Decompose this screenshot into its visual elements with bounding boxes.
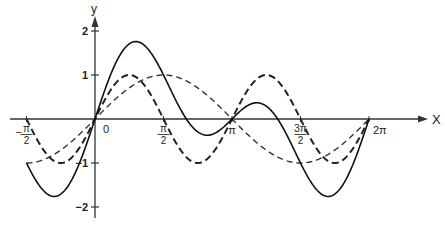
x-axis-arrow-icon: [418, 116, 428, 123]
y-axis-label: y: [91, 2, 97, 16]
y-tick-label: 1: [82, 69, 88, 81]
y-tick-label: 2: [82, 25, 88, 37]
x-axis-label: X: [432, 112, 441, 127]
fraction-denominator: 2: [298, 135, 304, 146]
plot-area: Xy21−1−2−π20π2π3π22π: [0, 0, 445, 228]
fraction-numerator: π: [23, 123, 30, 134]
axes: [10, 16, 428, 218]
fraction-denominator: 2: [24, 135, 30, 146]
fraction-numerator: 3π: [294, 123, 307, 134]
x-tick-label: π: [228, 124, 236, 136]
chart-figure: Xy21−1−2−π20π2π3π22π: [0, 0, 445, 228]
y-tick-label: −1: [75, 157, 88, 169]
minus-sign: −: [15, 126, 21, 138]
x-tick-label: π2: [158, 123, 170, 146]
x-tick-label: −π2: [15, 123, 32, 146]
fraction-denominator: 2: [161, 135, 167, 146]
y-axis-arrow-icon: [92, 16, 99, 27]
fraction-numerator: π: [160, 123, 167, 134]
origin-label: 0: [103, 123, 109, 135]
tick-labels: Xy21−1−2−π20π2π3π22π: [15, 2, 441, 213]
y-tick-label: −2: [75, 201, 88, 213]
x-tick-label: 3π2: [294, 123, 307, 146]
x-tick-label: 2π: [373, 124, 387, 136]
